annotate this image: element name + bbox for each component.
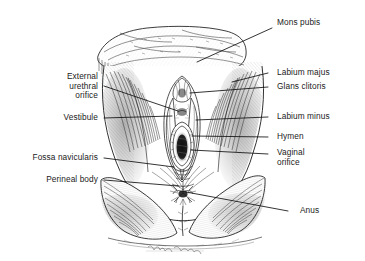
anatomy-figure: Mons pubis Labium majus Glans clitoris L… (0, 0, 365, 261)
label-perineal-body: Perineal body (0, 175, 98, 185)
anatomical-illustration (0, 0, 365, 261)
label-external-urethral-orifice: External urethral orifice (8, 72, 98, 101)
vaginal-orifice-detail (170, 122, 194, 170)
label-glans-clitoris: Glans clitoris (277, 82, 326, 92)
label-vaginal-orifice: Vaginal orifice (277, 148, 305, 167)
label-fossa-navicularis: Fossa navicularis (0, 153, 98, 163)
label-hymen: Hymen (277, 132, 304, 142)
label-vestibule: Vestibule (8, 113, 98, 123)
label-anus: Anus (300, 206, 319, 216)
label-labium-majus: Labium majus (277, 68, 330, 78)
label-mons-pubis: Mons pubis (277, 18, 320, 28)
label-labium-minus: Labium minus (277, 112, 330, 122)
